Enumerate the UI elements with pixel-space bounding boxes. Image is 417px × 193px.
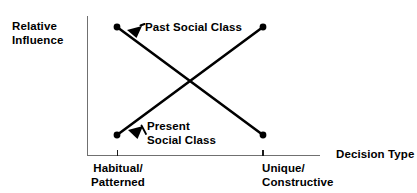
data-point-past-end (260, 132, 267, 139)
y-axis-label: RelativeInfluence (12, 19, 63, 47)
x-tick-label-0-line2: Patterned (91, 176, 145, 188)
y-axis-label-line1: Relative (12, 20, 57, 32)
data-point-present-end (260, 24, 267, 31)
x-tick-label-unique-constructive: Unique/Constructive (262, 162, 334, 189)
data-point-past-start (114, 24, 121, 31)
x-tick-label-0-line1: Habitual/ (93, 162, 142, 174)
annotation-present-line1: Present (147, 120, 190, 132)
annotation-past-social-class: Past Social Class (145, 21, 242, 34)
x-axis-label: Decision Type (336, 148, 414, 161)
annotation-present-line2: Social Class (147, 134, 216, 146)
annotation-present-social-class: PresentSocial Class (147, 120, 216, 147)
chart-figure: RelativeInfluence Decision Type Habitual… (0, 0, 417, 193)
y-axis-label-line2: Influence (12, 34, 63, 46)
x-tick-label-1-line2: Constructive (262, 176, 334, 188)
data-point-present-start (114, 132, 121, 139)
x-tick-label-habitual-patterned: Habitual/Patterned (85, 162, 151, 189)
x-tick-label-1-line1: Unique/ (262, 162, 305, 174)
annotation-arrow-present-icon (128, 126, 146, 140)
